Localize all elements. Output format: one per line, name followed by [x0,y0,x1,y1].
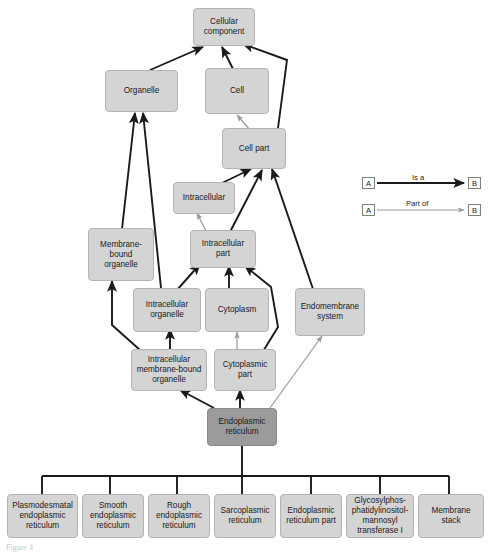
legend-arrow-layer [0,0,491,555]
legend: A Is a B A Part of B [0,0,491,555]
diagram-canvas: Cellular component Organelle Cell Cell p… [0,0,491,555]
